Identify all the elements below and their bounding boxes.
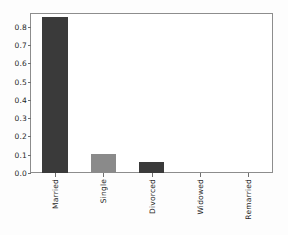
plot-area: 0.00.10.20.30.40.50.60.70.8 MarriedSingl… bbox=[31, 14, 272, 173]
bar bbox=[42, 17, 68, 173]
y-tick-label: 0.8 bbox=[14, 22, 27, 31]
y-tick-label: 0.0 bbox=[14, 169, 27, 178]
x-axis-label bbox=[0, 0, 1, 1]
chart-figure: 0.00.10.20.30.40.50.60.70.8 MarriedSingl… bbox=[0, 0, 288, 235]
y-tick-label: 0.2 bbox=[14, 132, 27, 141]
y-tick-label: 0.7 bbox=[14, 41, 27, 50]
y-tick-label: 0.1 bbox=[14, 150, 27, 159]
x-tick-mark bbox=[152, 173, 153, 177]
x-tick-label: Single bbox=[99, 179, 108, 203]
y-tick-mark bbox=[28, 118, 31, 119]
x-tick-mark bbox=[55, 173, 56, 177]
bar bbox=[91, 154, 117, 173]
bar bbox=[139, 162, 165, 173]
y-tick-label: 0.3 bbox=[14, 114, 27, 123]
y-tick-label: 0.5 bbox=[14, 77, 27, 86]
y-tick-mark bbox=[28, 173, 31, 174]
y-tick-mark bbox=[28, 136, 31, 137]
y-tick-mark bbox=[28, 63, 31, 64]
y-tick-mark bbox=[28, 45, 31, 46]
y-tick-mark bbox=[28, 155, 31, 156]
y-tick-mark bbox=[28, 27, 31, 28]
x-tick-label: Remarried bbox=[243, 179, 252, 220]
x-tick-label: Widowed bbox=[195, 179, 204, 215]
chart-title bbox=[0, 0, 1, 1]
x-tick-mark bbox=[248, 173, 249, 177]
y-tick-label: 0.4 bbox=[14, 95, 27, 104]
y-tick-mark bbox=[28, 100, 31, 101]
y-axis-label bbox=[0, 0, 1, 1]
y-tick-label: 0.6 bbox=[14, 59, 27, 68]
x-tick-mark bbox=[103, 173, 104, 177]
x-tick-mark bbox=[200, 173, 201, 177]
x-tick-label: Married bbox=[51, 179, 60, 209]
y-tick-mark bbox=[28, 82, 31, 83]
x-tick-label: Divorced bbox=[147, 179, 156, 214]
